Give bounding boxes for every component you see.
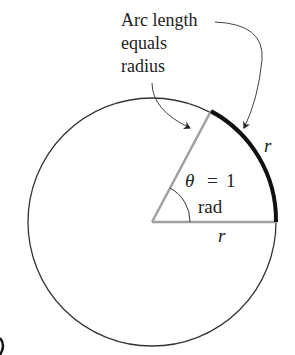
angle-arc xyxy=(170,188,190,222)
annotation-line-2: equals xyxy=(121,33,167,53)
radius-label: r xyxy=(218,225,226,246)
arrow-to-radius xyxy=(152,83,190,128)
equals-sign: = xyxy=(207,170,218,191)
annotation-line-1: Arc length xyxy=(121,10,197,30)
radian-diagram: Arc length equals radius θ = 1 rad r r xyxy=(0,0,295,355)
angle-value: 1 xyxy=(226,170,236,191)
angle-unit: rad xyxy=(198,196,223,217)
cropped-glyph xyxy=(0,338,3,355)
theta-symbol: θ xyxy=(185,170,194,191)
arc-length-label: r xyxy=(264,135,272,156)
annotation-line-3: radius xyxy=(121,56,165,76)
arrow-to-arc xyxy=(215,22,262,128)
